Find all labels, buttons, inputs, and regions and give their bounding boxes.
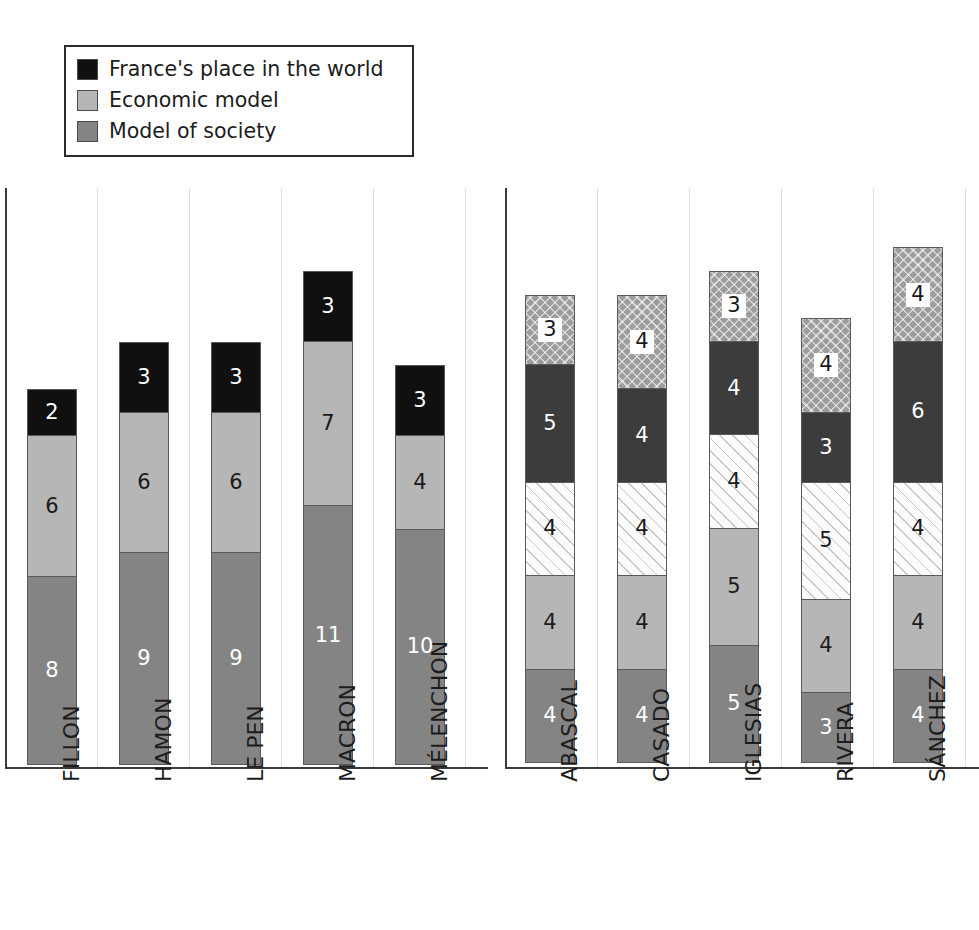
segment-value-label: 4: [635, 425, 648, 446]
bar-segment[interactable]: 6: [27, 435, 77, 577]
bar-segment[interactable]: 4: [395, 435, 445, 530]
bar-segment[interactable]: 6: [211, 412, 261, 554]
france-panel: 268FILLON369HAMON369LE PEN3711MACRON3410…: [0, 0, 489, 930]
segment-value-label: 5: [727, 693, 740, 714]
bar-segment[interactable]: 7: [303, 341, 353, 506]
gridline: [873, 188, 874, 767]
segment-value-label: 6: [911, 401, 924, 422]
x-axis-category-label: MACRON: [337, 684, 359, 782]
bar-segment[interactable]: 4: [525, 482, 575, 577]
segment-value-label: 3: [722, 294, 745, 318]
segment-value-label: 4: [635, 518, 648, 539]
segment-value-label: 3: [229, 367, 242, 388]
legend-item-label: France's place in the world: [109, 59, 383, 80]
bar-segment[interactable]: 4: [893, 247, 943, 342]
bar-segment[interactable]: 6: [119, 412, 169, 554]
segment-value-label: 4: [911, 518, 924, 539]
segment-value-label: 4: [727, 378, 740, 399]
segment-value-label: 5: [543, 413, 556, 434]
legend-item-label: Model of society: [109, 121, 276, 142]
segment-value-label: 4: [635, 705, 648, 726]
stacked-bar[interactable]: 369: [211, 342, 261, 767]
segment-value-label: 4: [543, 518, 556, 539]
legend-swatch-lgray-icon: [77, 90, 98, 111]
segment-value-label: 11: [315, 625, 342, 646]
x-axis-category-label: MÉLENCHON: [429, 641, 451, 782]
legend-item[interactable]: Model of society: [77, 116, 399, 147]
bar-segment[interactable]: 2: [27, 389, 77, 436]
segment-value-label: 4: [727, 471, 740, 492]
bar-segment[interactable]: 3: [525, 295, 575, 366]
segment-value-label: 3: [819, 717, 832, 738]
segment-value-label: 4: [906, 283, 929, 307]
bar-segment[interactable]: 4: [617, 295, 667, 390]
legend-item[interactable]: France's place in the world: [77, 54, 399, 85]
segment-value-label: 6: [229, 472, 242, 493]
x-axis-category-label: ABASCAL: [559, 680, 581, 782]
legend-swatch-mgray-icon: [77, 121, 98, 142]
bar-segment[interactable]: 6: [893, 341, 943, 483]
france-legend: France's place in the worldEconomic mode…: [64, 45, 414, 157]
bar-segment[interactable]: 3: [303, 271, 353, 342]
gridline: [689, 188, 690, 767]
bar-segment[interactable]: 3: [801, 412, 851, 483]
bar-segment[interactable]: 4: [617, 482, 667, 577]
segment-value-label: 6: [45, 496, 58, 517]
segment-value-label: 9: [229, 648, 242, 669]
gridline: [597, 188, 598, 767]
segment-value-label: 4: [413, 472, 426, 493]
bar-segment[interactable]: 3: [119, 342, 169, 413]
segment-value-label: 3: [321, 296, 334, 317]
gridline: [189, 188, 190, 767]
bar-segment[interactable]: 4: [525, 575, 575, 670]
bar-segment[interactable]: 5: [801, 482, 851, 600]
legend-item-label: Economic model: [109, 90, 279, 111]
x-axis-category-label: RIVERA: [835, 702, 857, 782]
bar-segment[interactable]: 4: [709, 341, 759, 436]
bar-segment[interactable]: 3: [709, 271, 759, 342]
segment-value-label: 4: [819, 635, 832, 656]
gridline: [281, 188, 282, 767]
segment-value-label: 4: [543, 612, 556, 633]
segment-value-label: 3: [538, 318, 561, 342]
segment-value-label: 5: [819, 530, 832, 551]
bar-segment[interactable]: 5: [525, 364, 575, 482]
stacked-bar[interactable]: 43543: [801, 318, 851, 767]
gridline: [781, 188, 782, 767]
x-axis-category-label: FILLON: [61, 705, 83, 782]
x-axis-category-label: LE PEN: [245, 705, 267, 782]
gridline: [465, 188, 466, 767]
x-axis-category-label: CASADO: [651, 688, 673, 782]
segment-value-label: 6: [137, 472, 150, 493]
x-axis-category-label: IGLESIAS: [743, 683, 765, 782]
segment-value-label: 4: [911, 705, 924, 726]
bar-segment[interactable]: 4: [801, 318, 851, 413]
segment-value-label: 4: [635, 612, 648, 633]
legend-swatch-black-icon: [77, 59, 98, 80]
segment-value-label: 4: [911, 612, 924, 633]
bar-segment[interactable]: 4: [617, 388, 667, 483]
segment-value-label: 7: [321, 413, 334, 434]
x-axis-category-label: HAMON: [153, 698, 175, 782]
bar-segment[interactable]: 4: [801, 599, 851, 694]
bar-segment[interactable]: 5: [709, 528, 759, 646]
bar-segment[interactable]: 4: [617, 575, 667, 670]
bar-segment[interactable]: 4: [893, 482, 943, 577]
segment-value-label: 4: [814, 353, 837, 377]
segment-value-label: 9: [137, 648, 150, 669]
gridline: [97, 188, 98, 767]
bar-segment[interactable]: 3: [395, 365, 445, 436]
gridline: [373, 188, 374, 767]
segment-value-label: 3: [819, 437, 832, 458]
bar-segment[interactable]: 3: [211, 342, 261, 413]
segment-value-label: 8: [45, 660, 58, 681]
y-axis-line: [505, 188, 507, 769]
x-axis-category-label: SÁNCHEZ: [927, 675, 949, 782]
segment-value-label: 4: [630, 330, 653, 354]
bar-segment[interactable]: 4: [893, 575, 943, 670]
bar-segment[interactable]: 4: [709, 434, 759, 529]
segment-value-label: 10: [407, 636, 434, 657]
legend-item[interactable]: Economic model: [77, 85, 399, 116]
spain-panel: 35444ABASCAL44444CASADO34455IGLESIAS4354…: [490, 0, 979, 930]
segment-value-label: 3: [137, 367, 150, 388]
